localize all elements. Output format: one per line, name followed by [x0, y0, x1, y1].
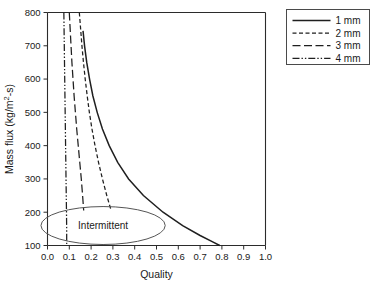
x-tick-label: 0.1 [63, 251, 76, 262]
y-axis-title: Mass flux (kg/m2-s) [2, 84, 16, 174]
y-tick-label: 400 [25, 140, 41, 151]
y-tick-label: 800 [25, 7, 41, 18]
legend-label-2-mm: 2 mm [336, 28, 361, 39]
x-tick-label: 1.0 [259, 251, 272, 262]
x-tick-label: 0.6 [172, 251, 185, 262]
y-tick-label: 200 [25, 207, 41, 218]
flow-regime-chart: 100200300400500600700800 0.00.10.20.30.4… [0, 0, 373, 288]
legend-label-1-mm: 1 mm [336, 15, 361, 26]
y-tick-label: 500 [25, 107, 41, 118]
chart-legend: 1 mm2 mm3 mm4 mm [287, 10, 370, 65]
region-annotations: Intermittent [41, 207, 165, 245]
intermittent-label: Intermittent [78, 220, 128, 231]
y-axis-ticks [44, 13, 48, 246]
legend-label-3-mm: 3 mm [336, 40, 361, 51]
x-tick-label: 0.0 [41, 251, 54, 262]
plot-axes [48, 13, 266, 246]
y-tick-label: 600 [25, 73, 41, 84]
y-axis-tick-labels: 100200300400500600700800 [25, 7, 41, 251]
x-tick-label: 0.7 [193, 251, 206, 262]
y-tick-label: 100 [25, 240, 41, 251]
x-tick-label: 0.4 [128, 251, 141, 262]
x-tick-label: 0.2 [84, 251, 97, 262]
x-tick-label: 0.3 [106, 251, 119, 262]
x-axis-title: Quality [140, 268, 173, 280]
x-tick-label: 0.9 [237, 251, 250, 262]
x-axis-ticks [48, 246, 266, 250]
legend-label-4-mm: 4 mm [336, 53, 361, 64]
x-tick-label: 0.8 [215, 251, 228, 262]
y-tick-label: 300 [25, 173, 41, 184]
y-tick-label: 700 [25, 40, 41, 51]
chart-figure: 100200300400500600700800 0.00.10.20.30.4… [0, 0, 373, 288]
x-tick-label: 0.5 [150, 251, 163, 262]
x-axis-tick-labels: 0.00.10.20.30.40.50.60.70.80.91.0 [41, 251, 272, 262]
